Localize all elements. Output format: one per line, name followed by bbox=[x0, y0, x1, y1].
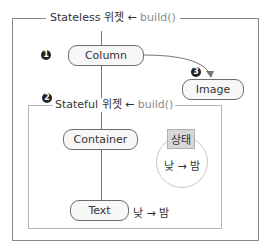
stateful-title-text: Stateful 위젯 bbox=[55, 98, 125, 111]
state-badge: 상태 bbox=[167, 129, 195, 149]
column-to-image-arrow bbox=[140, 50, 220, 80]
build-arrow-icon: ← bbox=[125, 98, 134, 111]
image-node: Image bbox=[182, 79, 244, 100]
text-node: Text bbox=[70, 200, 129, 221]
container-label: Container bbox=[74, 133, 128, 146]
marker-1-icon: 1 bbox=[41, 50, 51, 60]
text-label: Text bbox=[88, 204, 110, 217]
container-node: Container bbox=[63, 129, 138, 150]
build-call-text: build() bbox=[137, 11, 176, 24]
build-call-text: build() bbox=[134, 98, 173, 111]
text-value: 낮 → 밤 bbox=[133, 204, 169, 220]
image-label: Image bbox=[196, 83, 230, 96]
state-transition: 낮 → 밤 bbox=[164, 157, 200, 173]
marker-2-icon: 2 bbox=[42, 93, 52, 103]
stateful-widget-title: Stateful 위젯 ← build() bbox=[53, 98, 175, 112]
stateless-title-text: Stateless 위젯 bbox=[50, 11, 127, 24]
marker-3-icon: 3 bbox=[191, 67, 201, 77]
build-arrow-icon: ← bbox=[127, 11, 136, 24]
stateless-widget-title: Stateless 위젯 ← build() bbox=[46, 11, 180, 25]
column-label: Column bbox=[85, 49, 127, 62]
column-node: Column bbox=[68, 45, 144, 66]
